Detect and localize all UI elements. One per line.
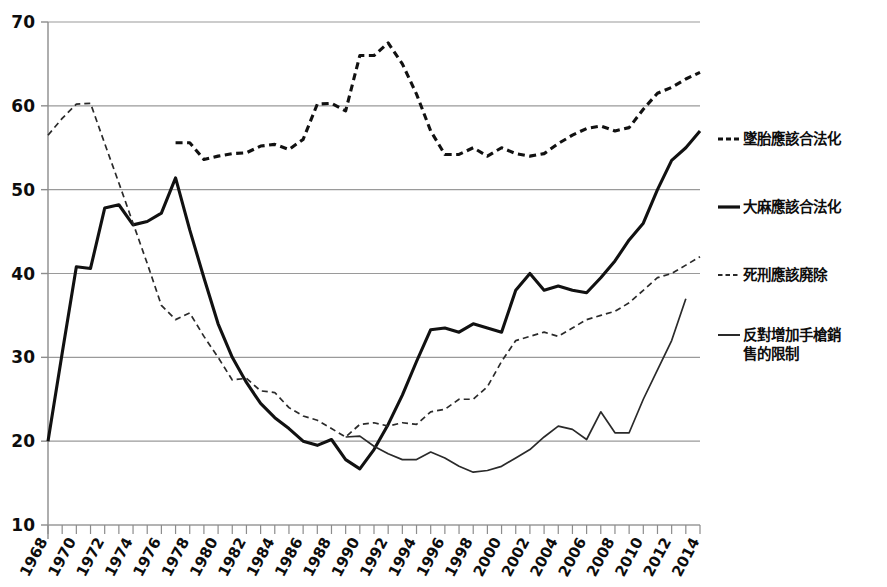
legend-label-handgun: 反對增加手槍銷 售的限制 xyxy=(743,326,841,364)
data-series xyxy=(48,43,700,472)
y-tick-label-10: 10 xyxy=(11,515,35,535)
y-tick-label-30: 30 xyxy=(11,347,35,367)
legend-swatch-solid-bold xyxy=(718,199,740,214)
series-line-2 xyxy=(48,103,700,437)
y-tick-label-70: 70 xyxy=(11,12,35,32)
series-line-1 xyxy=(48,131,700,469)
legend-item-death-penalty[interactable]: 死刑應該廃除 xyxy=(718,266,884,285)
legend-label-death-penalty: 死刑應該廃除 xyxy=(743,266,827,285)
legend-label-abortion: 墜胎應該合法化 xyxy=(743,130,841,149)
x-tick-label-2014: 2014 xyxy=(668,534,703,579)
legend-item-abortion[interactable]: 墜胎應該合法化 xyxy=(718,130,884,149)
legend-label-marijuana: 大麻應該合法化 xyxy=(743,198,841,217)
y-tick-label-50: 50 xyxy=(11,180,35,200)
legend-item-handgun[interactable]: 反對增加手槍銷 售的限制 xyxy=(718,326,884,364)
legend-swatch-dashed-thin xyxy=(718,267,740,282)
legend-item-marijuana[interactable]: 大麻應該合法化 xyxy=(718,198,884,217)
x-axis-tick-labels: 1968197019721974197619781980198219841986… xyxy=(16,534,703,579)
legend-swatch-solid-thin xyxy=(718,327,740,342)
axes xyxy=(48,22,700,539)
y-tick-label-40: 40 xyxy=(11,264,35,284)
series-line-3 xyxy=(346,299,686,473)
chart-legend: 墜胎應該合法化 大麻應該合法化 死刑應該廃除 xyxy=(718,0,887,587)
legend-swatch-dashed-bold xyxy=(718,131,740,146)
chart-container: 10203040506070 1968197019721974197619781… xyxy=(0,0,887,587)
y-tick-label-60: 60 xyxy=(11,96,35,116)
y-axis-tick-labels: 10203040506070 xyxy=(11,12,35,535)
y-tick-label-20: 20 xyxy=(11,431,35,451)
series-line-0 xyxy=(176,43,700,160)
